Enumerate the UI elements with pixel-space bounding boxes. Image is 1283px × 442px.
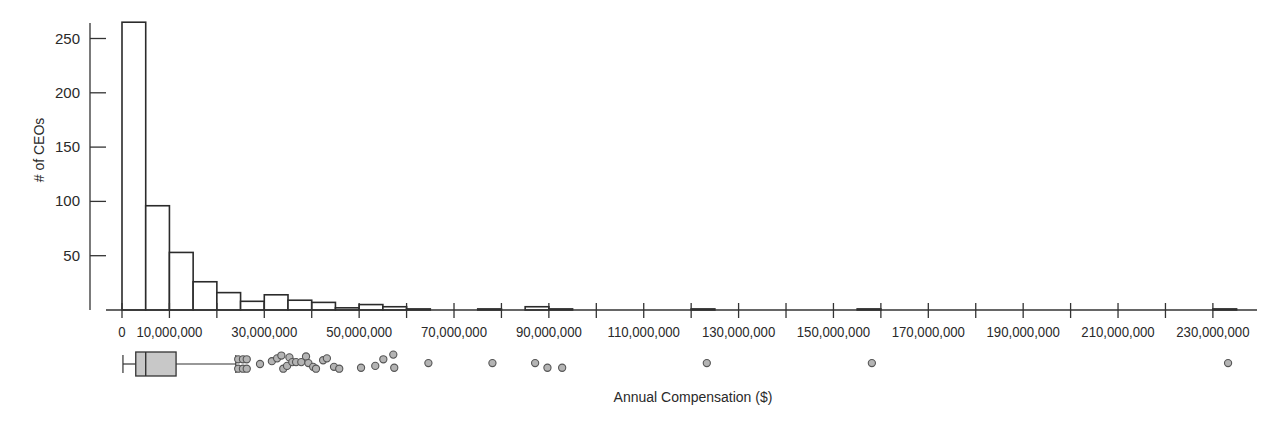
boxplot-outlier [380,356,387,363]
boxplot-outlier [312,365,319,372]
boxplot-outlier [391,364,398,371]
boxplot-outlier [243,365,250,372]
histogram-bar [264,295,288,310]
boxplot-outlier [256,360,263,367]
y-tick-label: 100 [55,192,80,209]
y-tick-label: 150 [55,138,80,155]
y-tick-label: 250 [55,30,80,47]
y-tick-label: 200 [55,84,80,101]
boxplot-outlier [1224,359,1231,366]
boxplot [123,351,1232,376]
histogram-bar [122,22,146,310]
histogram-bars [122,22,1237,310]
chart-canvas: 50100150200250 010,000,00030,000,00050,0… [0,0,1283,442]
x-tick-label: 10,000,000 [136,323,202,340]
boxplot-outlier [390,351,397,358]
x-tick-label: 90,000,000 [516,323,582,340]
x-tick-label: 230,000,000 [1176,323,1249,340]
x-tick-label: 70,000,000 [421,323,487,340]
x-tick-label: 210,000,000 [1081,323,1154,340]
x-tick-label: 0 [118,323,125,340]
boxplot-box [136,352,176,376]
boxplot-outlier [243,356,250,363]
histogram-bar [146,206,170,310]
x-tick-label: 50,000,000 [326,323,392,340]
x-tick-label: 150,000,000 [797,323,870,340]
histogram-bar [241,301,265,310]
boxplot-outlier [532,359,539,366]
histogram-bar [193,282,217,310]
histogram-bar [169,252,193,310]
boxplot-outlier [559,364,566,371]
boxplot-outlier [336,365,343,372]
histogram-bar [217,293,241,310]
x-axis-title: Annual Compensation ($) [614,389,773,405]
x-tick-label: 30,000,000 [231,323,297,340]
boxplot-outlier [357,364,364,371]
boxplot-outlier [703,359,710,366]
boxplot-outlier [425,359,432,366]
boxplot-outlier [868,359,875,366]
x-tick-label: 130,000,000 [702,323,775,340]
histogram-bar [288,300,312,310]
boxplot-outlier [323,355,330,362]
boxplot-outlier [544,364,551,371]
y-axis-title: # of CEOs [31,118,47,183]
histogram-chart: 50100150200250 010,000,00030,000,00050,0… [0,0,1283,442]
boxplot-outlier [489,359,496,366]
boxplot-outlier [278,352,285,359]
x-tick-label: 170,000,000 [892,323,965,340]
boxplot-outlier [372,362,379,369]
x-tick-label: 190,000,000 [987,323,1060,340]
histogram-bar [312,302,336,310]
histogram-bar [359,305,383,310]
x-tick-label: 110,000,000 [608,323,680,340]
y-tick-label: 50 [63,247,80,264]
y-axis: 50100150200250 [55,23,106,310]
